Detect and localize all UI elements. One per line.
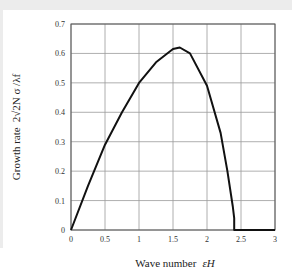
- y-tick-label: 0.1: [55, 197, 65, 206]
- y-tick-label: 0.2: [55, 167, 65, 176]
- x-axis-ticks: 00.511.522.53: [69, 235, 277, 244]
- y-tick-label: 0: [61, 226, 65, 235]
- y-tick-label: 0.4: [55, 108, 65, 117]
- y-tick-label: 0.3: [55, 138, 65, 147]
- y-axis-label: Growth rate2√2N σ /λf: [10, 74, 22, 181]
- x-axis-label: Wave numberεH: [135, 257, 215, 269]
- x-tick-label: 0: [69, 235, 73, 244]
- y-tick-label: 0.7: [55, 20, 65, 29]
- y-tick-label: 0.6: [55, 49, 65, 58]
- x-tick-label: 2: [205, 235, 209, 244]
- y-axis-ticks: 00.10.20.30.40.50.60.7: [55, 20, 65, 235]
- x-tick-label: 1.5: [168, 235, 178, 244]
- x-tick-label: 3: [273, 235, 277, 244]
- grid-lines: [71, 24, 275, 230]
- y-tick-label: 0.5: [55, 79, 65, 88]
- x-tick-label: 1: [137, 235, 141, 244]
- growth-rate-chart: 00.10.20.30.40.50.60.7 00.511.522.53 Wav…: [0, 0, 292, 275]
- x-tick-label: 0.5: [100, 235, 110, 244]
- x-tick-label: 2.5: [236, 235, 246, 244]
